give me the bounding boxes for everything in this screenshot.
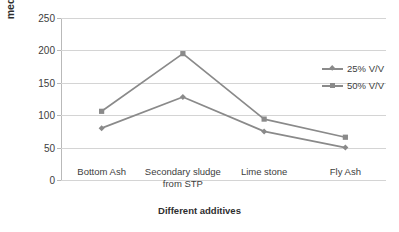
y-axis-title: meq/100g [4, 0, 16, 50]
data-point-25-v-v-3 [342, 145, 348, 151]
data-point-25-v-v-1 [180, 94, 186, 100]
data-point-50-v-v-3 [343, 135, 348, 140]
line-chart: meq/100g 050100150200250 Bottom AshSecon… [0, 0, 399, 232]
legend-label: 50% V/V [347, 80, 384, 91]
data-point-50-v-v-0 [99, 109, 104, 114]
data-point-50-v-v-2 [262, 116, 267, 121]
legend-marker-diamond-icon [322, 64, 343, 73]
plot-area: 050100150200250 [61, 18, 386, 180]
x-axis-label-3: Fly Ash [296, 166, 394, 178]
data-point-50-v-v-1 [180, 51, 185, 56]
data-point-25-v-v-2 [261, 128, 267, 134]
legend: 25% V/V50% V/V [322, 60, 384, 94]
legend-marker-square-icon [322, 81, 343, 90]
series-line-25-v-v [102, 97, 346, 148]
data-point-25-v-v-0 [99, 125, 105, 131]
y-tick-0 [57, 180, 61, 181]
legend-item-25-v-v[interactable]: 25% V/V [322, 60, 384, 77]
y-tick-label-250: 250 [38, 13, 55, 24]
series-layer [61, 18, 386, 180]
y-tick-label-50: 50 [44, 142, 55, 153]
legend-label: 25% V/V [347, 63, 384, 74]
y-tick-label-100: 100 [38, 110, 55, 121]
series-line-50-v-v [102, 54, 346, 138]
legend-item-50-v-v[interactable]: 50% V/V [322, 77, 384, 94]
x-axis-title: Different additives [0, 205, 399, 216]
y-tick-label-200: 200 [38, 45, 55, 56]
y-tick-label-150: 150 [38, 77, 55, 88]
